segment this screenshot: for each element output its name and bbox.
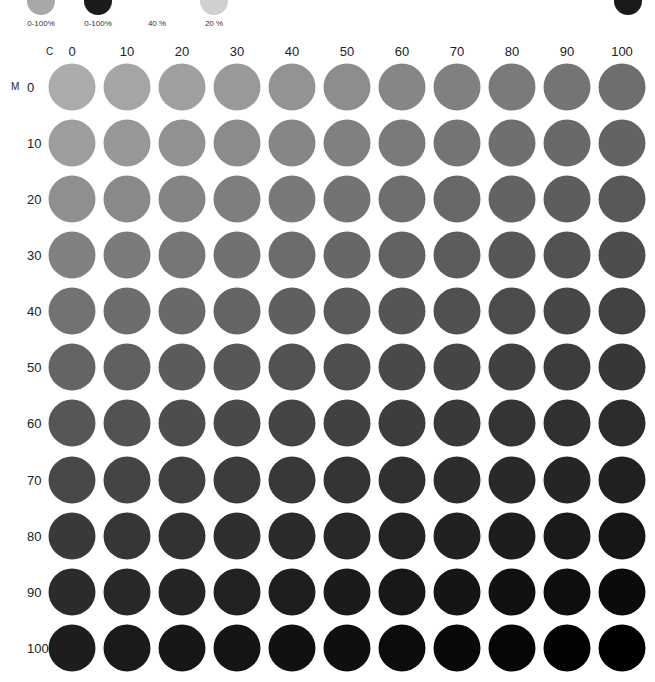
swatch-c50-m60 [324, 400, 371, 447]
swatch-c60-m30 [379, 232, 426, 279]
swatch-c40-m80 [269, 513, 316, 560]
legend-label: 40 % [148, 19, 166, 28]
swatch-c90-m60 [544, 400, 591, 447]
swatch-c100-m30 [599, 232, 646, 279]
swatch-c40-m10 [269, 120, 316, 167]
swatch-c40-m70 [269, 457, 316, 504]
swatch-c30-m90 [214, 569, 261, 616]
swatch-c10-m30 [104, 232, 151, 279]
swatch-c90-m50 [544, 344, 591, 391]
swatch-c90-m40 [544, 288, 591, 335]
swatch-c20-m70 [159, 457, 206, 504]
swatch-c10-m50 [104, 344, 151, 391]
swatch-c100-m60 [599, 400, 646, 447]
swatch-c70-m100 [434, 625, 481, 672]
swatch-c60-m10 [379, 120, 426, 167]
legend-swatch [27, 0, 55, 15]
swatch-c100-m100 [599, 625, 646, 672]
swatch-c40-m50 [269, 344, 316, 391]
swatch-c60-m100 [379, 625, 426, 672]
swatch-c70-m60 [434, 400, 481, 447]
swatch-c90-m30 [544, 232, 591, 279]
column-label: 80 [505, 44, 519, 59]
swatch-c70-m80 [434, 513, 481, 560]
legend-swatch [200, 0, 228, 15]
swatch-c20-m60 [159, 400, 206, 447]
swatch-c80-m80 [489, 513, 536, 560]
swatch-c0-m100 [49, 625, 96, 672]
swatch-c80-m50 [489, 344, 536, 391]
swatch-c20-m80 [159, 513, 206, 560]
swatch-c30-m50 [214, 344, 261, 391]
swatch-c50-m0 [324, 64, 371, 111]
swatch-c20-m0 [159, 64, 206, 111]
column-label: 10 [120, 44, 134, 59]
column-label: 20 [175, 44, 189, 59]
swatch-c40-m100 [269, 625, 316, 672]
swatch-c50-m100 [324, 625, 371, 672]
swatch-c70-m30 [434, 232, 481, 279]
swatch-c90-m70 [544, 457, 591, 504]
swatch-c70-m90 [434, 569, 481, 616]
swatch-c30-m60 [214, 400, 261, 447]
swatch-c100-m20 [599, 176, 646, 223]
swatch-c10-m70 [104, 457, 151, 504]
swatch-c100-m90 [599, 569, 646, 616]
swatch-c90-m10 [544, 120, 591, 167]
swatch-c50-m80 [324, 513, 371, 560]
swatch-c100-m50 [599, 344, 646, 391]
swatch-c50-m30 [324, 232, 371, 279]
swatch-c30-m80 [214, 513, 261, 560]
swatch-c70-m70 [434, 457, 481, 504]
column-label: 30 [230, 44, 244, 59]
swatch-c80-m40 [489, 288, 536, 335]
swatch-c60-m40 [379, 288, 426, 335]
swatch-c0-m40 [49, 288, 96, 335]
swatch-c90-m100 [544, 625, 591, 672]
swatch-c0-m20 [49, 176, 96, 223]
swatch-c70-m10 [434, 120, 481, 167]
swatch-c100-m70 [599, 457, 646, 504]
swatch-c30-m10 [214, 120, 261, 167]
swatch-c80-m0 [489, 64, 536, 111]
swatch-c10-m20 [104, 176, 151, 223]
swatch-c90-m0 [544, 64, 591, 111]
column-label: 70 [450, 44, 464, 59]
swatch-c10-m100 [104, 625, 151, 672]
legend-label: 20 % [205, 19, 223, 28]
swatch-c100-m10 [599, 120, 646, 167]
swatch-c80-m10 [489, 120, 536, 167]
c-axis-label: C [46, 46, 53, 57]
swatch-c0-m60 [49, 400, 96, 447]
swatch-c100-m80 [599, 513, 646, 560]
swatch-c40-m20 [269, 176, 316, 223]
swatch-c0-m90 [49, 569, 96, 616]
swatch-c70-m20 [434, 176, 481, 223]
column-label: 50 [340, 44, 354, 59]
swatch-c0-m50 [49, 344, 96, 391]
swatch-c0-m80 [49, 513, 96, 560]
swatch-c10-m90 [104, 569, 151, 616]
swatch-c90-m80 [544, 513, 591, 560]
swatch-c60-m50 [379, 344, 426, 391]
swatch-c90-m20 [544, 176, 591, 223]
swatch-c90-m90 [544, 569, 591, 616]
swatch-c50-m50 [324, 344, 371, 391]
swatch-c10-m40 [104, 288, 151, 335]
swatch-c20-m20 [159, 176, 206, 223]
swatch-c60-m80 [379, 513, 426, 560]
swatch-c10-m60 [104, 400, 151, 447]
swatch-c40-m60 [269, 400, 316, 447]
swatch-c60-m70 [379, 457, 426, 504]
legend-label: 0-100% [27, 19, 55, 28]
swatch-c80-m30 [489, 232, 536, 279]
swatch-c40-m40 [269, 288, 316, 335]
swatch-c50-m90 [324, 569, 371, 616]
swatch-c20-m40 [159, 288, 206, 335]
column-label: 90 [560, 44, 574, 59]
swatch-c20-m50 [159, 344, 206, 391]
swatch-c30-m30 [214, 232, 261, 279]
swatch-c80-m100 [489, 625, 536, 672]
swatch-c80-m70 [489, 457, 536, 504]
swatch-c0-m30 [49, 232, 96, 279]
